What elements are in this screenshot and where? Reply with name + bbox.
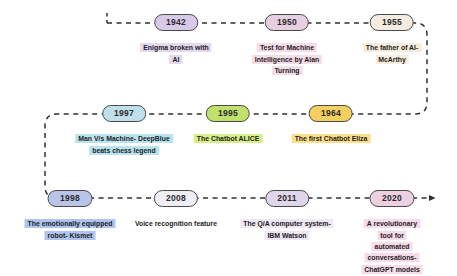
milestone-1950[interactable]: 1950Test for Machine Intelligence by Ala… bbox=[252, 14, 322, 77]
milestone-2020[interactable]: 2020A revolutionary tool for automated c… bbox=[360, 190, 425, 276]
caption-text: The Q/A computer system- IBM Watson bbox=[240, 219, 333, 239]
milestone-1942[interactable]: 1942Enigma broken with AI bbox=[140, 14, 211, 66]
caption-text: Man V/s Machine- DeepBlue beats chess le… bbox=[75, 134, 173, 154]
caption-text: Test for Machine Intelligence by Alan Tu… bbox=[252, 43, 322, 75]
milestone-caption-1964: The first Chatbot Eliza bbox=[292, 133, 371, 145]
year-pill-1964[interactable]: 1964 bbox=[309, 105, 353, 122]
caption-text: The father of AI- McArthy bbox=[363, 43, 422, 63]
year-pill-1955[interactable]: 1955 bbox=[370, 14, 414, 31]
milestone-1955[interactable]: 1955The father of AI- McArthy bbox=[363, 14, 422, 66]
milestone-caption-1955: The father of AI- McArthy bbox=[363, 42, 422, 66]
year-pill-1950[interactable]: 1950 bbox=[265, 14, 309, 31]
milestone-2011[interactable]: 2011The Q/A computer system- IBM Watson bbox=[240, 190, 333, 242]
caption-text: Enigma broken with AI bbox=[140, 43, 211, 63]
milestone-caption-1950: Test for Machine Intelligence by Alan Tu… bbox=[252, 42, 322, 77]
milestone-caption-1942: Enigma broken with AI bbox=[140, 42, 211, 66]
milestone-2008[interactable]: 2008Voice recognition feature bbox=[132, 190, 220, 230]
caption-text: The first Chatbot Eliza bbox=[292, 134, 371, 143]
milestone-caption-1997: Man V/s Machine- DeepBlue beats chess le… bbox=[75, 133, 173, 157]
milestone-1997[interactable]: 1997Man V/s Machine- DeepBlue beats ches… bbox=[75, 105, 173, 157]
milestone-1964[interactable]: 1964The first Chatbot Eliza bbox=[292, 105, 371, 145]
year-pill-2020[interactable]: 2020 bbox=[370, 190, 414, 207]
milestone-caption-1998: The emotionally equipped robot- Kismet bbox=[25, 218, 116, 242]
milestone-caption-2011: The Q/A computer system- IBM Watson bbox=[240, 218, 333, 242]
milestone-caption-2020: A revolutionary tool for automated conve… bbox=[360, 218, 425, 276]
milestone-caption-2008: Voice recognition feature bbox=[132, 218, 220, 230]
year-pill-1998[interactable]: 1998 bbox=[48, 190, 92, 207]
year-pill-1995[interactable]: 1995 bbox=[206, 105, 250, 122]
caption-text: Voice recognition feature bbox=[132, 219, 220, 228]
year-pill-1942[interactable]: 1942 bbox=[154, 14, 198, 31]
milestone-1995[interactable]: 1995The Chatbot ALICE bbox=[194, 105, 263, 145]
year-pill-1997[interactable]: 1997 bbox=[102, 105, 146, 122]
caption-text: The Chatbot ALICE bbox=[194, 134, 263, 143]
year-pill-2011[interactable]: 2011 bbox=[265, 190, 309, 207]
milestone-caption-1995: The Chatbot ALICE bbox=[194, 133, 263, 145]
milestone-1998[interactable]: 1998The emotionally equipped robot- Kism… bbox=[25, 190, 116, 242]
caption-text: A revolutionary tool for automated conve… bbox=[361, 219, 423, 274]
caption-text: The emotionally equipped robot- Kismet bbox=[25, 219, 116, 239]
year-pill-2008[interactable]: 2008 bbox=[154, 190, 198, 207]
